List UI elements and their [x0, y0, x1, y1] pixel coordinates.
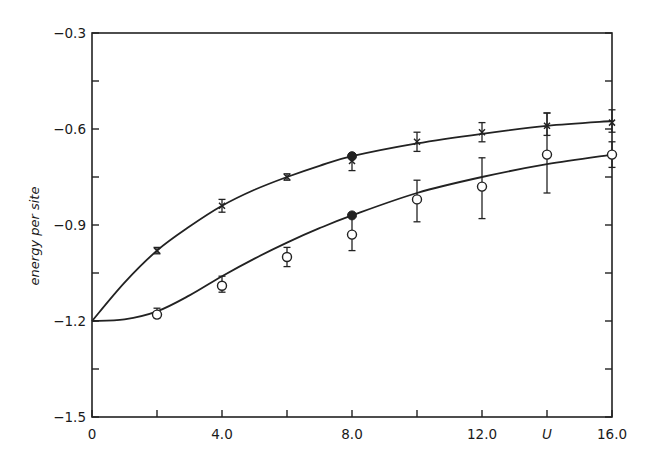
y-tick-label: −0.9 [53, 217, 86, 233]
y-tick-label: −0.3 [53, 25, 86, 41]
x-axis: 04.08.012.0U16.0 [88, 410, 627, 442]
open-circle-point [413, 180, 422, 222]
open-circle-point [283, 247, 292, 266]
x-tick-label: 8.0 [341, 426, 362, 442]
filled-circle-marker [348, 211, 357, 220]
chart: −0.3−0.6−0.9−1.2−1.5 04.08.012.0U16.0 en… [0, 0, 648, 461]
cross-point [414, 132, 421, 151]
x-tick-label: 16.0 [597, 426, 627, 442]
open-circle-point [478, 158, 487, 219]
cross-point [154, 247, 161, 253]
cross-point [479, 123, 486, 142]
y-tick-label: −1.2 [53, 313, 86, 329]
y-axis-label: energy per site [27, 187, 42, 286]
x-tick-label: 4.0 [211, 426, 232, 442]
filled-circle-marker [348, 152, 357, 161]
x-tick-label: 12.0 [467, 426, 497, 442]
data-markers [153, 110, 617, 319]
open-circle-marker [543, 150, 552, 159]
y-tick-label: −1.5 [53, 409, 86, 425]
open-circle-marker [283, 253, 292, 262]
open-circle-marker [478, 182, 487, 191]
cross-point [219, 199, 226, 212]
y-tick-label: −0.6 [53, 121, 86, 137]
filled-circle-point [348, 211, 357, 220]
x-tick-label: 0 [88, 426, 97, 442]
filled-circle-point [348, 152, 357, 161]
open-circle-marker [153, 310, 162, 319]
x-axis-label: U [542, 426, 552, 442]
y-axis: −0.3−0.6−0.9−1.2−1.5 [53, 25, 612, 425]
open-circle-marker [218, 281, 227, 290]
open-circle-point [348, 215, 357, 250]
open-circle-marker [608, 150, 617, 159]
open-circle-point [608, 142, 617, 168]
open-circle-marker [348, 230, 357, 239]
open-circle-marker [413, 195, 422, 204]
